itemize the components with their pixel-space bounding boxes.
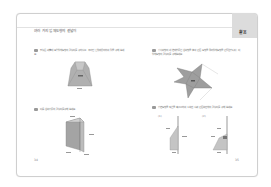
star-net-figure [172, 62, 222, 102]
question-number-badge [152, 49, 156, 52]
question-number-badge [152, 106, 156, 109]
question-4: 평면도형을 직선을 축으로 하여 1회전 시켜 만든 회전체의 겉넓이를 구해 … [152, 106, 242, 110]
question-3-text: 정사각형의 네 변에 합동인 삼각형을 붙여 만든 도형을 접어 입체도형을 만… [152, 49, 240, 56]
left-page-number: 34 [34, 158, 38, 162]
revolution-shape-1 [162, 116, 192, 154]
question-number-badge [34, 49, 38, 52]
question-number-badge [34, 108, 38, 111]
revolution-shape-2 [205, 116, 237, 154]
question-2-text: 다음 삼각기둥의 겉넓이를 구해 보세요. [40, 108, 76, 111]
question-4-text: 평면도형을 직선을 축으로 하여 1회전 시켜 만든 회전체의 겉넓이를 구해 … [158, 106, 233, 109]
truncated-pyramid-figure [66, 60, 96, 90]
question-1-text: 밑넓은 각뿔대 모양 입체도형의 겉넓이를 구하시오. 주어진 단위에 유의하여… [34, 49, 124, 56]
question-1: 밑넓은 각뿔대 모양 입체도형의 겉넓이를 구하시오. 주어진 단위에 유의하여… [34, 49, 124, 57]
question-3: 정사각형의 네 변에 합동인 삼각형을 붙여 만든 도형을 접어 입체도형을 만… [152, 49, 242, 57]
question-2: 다음 삼각기둥의 겉넓이를 구해 보세요. [34, 108, 124, 112]
right-page-number: 35 [235, 158, 239, 162]
page-title: 여러 가지 입체도형의 겉넓이 [34, 28, 76, 33]
triangular-prism-figure [62, 116, 98, 156]
section-tab-label: 활용 [239, 29, 247, 35]
